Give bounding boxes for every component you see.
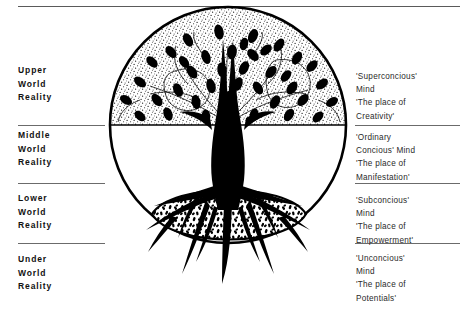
diagram-page: Upper World Reality Middle World Reality…	[0, 0, 470, 314]
tree-of-life-illustration	[0, 0, 470, 314]
